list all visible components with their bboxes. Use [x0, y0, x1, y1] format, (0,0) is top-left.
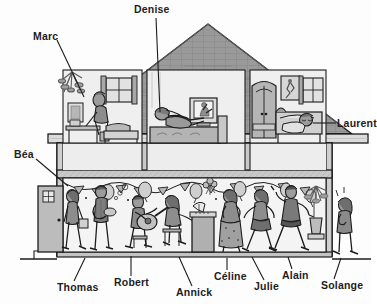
leader-line-solange: [334, 258, 341, 279]
framed-picture: [68, 103, 83, 122]
window-right-room: [299, 76, 323, 104]
room-left-marc: [58, 70, 142, 143]
window-left-room: [101, 76, 137, 104]
room-middle-denise: [147, 70, 245, 143]
label-robert: Robert: [114, 277, 149, 288]
ground-floor-party: [38, 178, 358, 254]
label-celine: Céline: [214, 271, 247, 282]
room-right-laurent: [250, 70, 326, 143]
upper-floor: [63, 143, 326, 170]
label-marc: Marc: [33, 31, 58, 42]
leader-line-annick: [179, 257, 192, 286]
label-thomas: Thomas: [57, 282, 98, 293]
person-solange: [333, 187, 358, 254]
wardrobe: [252, 82, 276, 139]
front-door: [38, 186, 63, 252]
leader-line-thomas: [74, 258, 85, 281]
leader-line-julie: [252, 257, 264, 280]
leader-line-alain: [288, 257, 292, 269]
label-denise: Denise: [134, 4, 170, 15]
label-solange: Solange: [321, 280, 363, 291]
label-bea: Béa: [14, 149, 34, 160]
label-julie: Julie: [254, 281, 279, 292]
label-alain: Alain: [282, 270, 309, 281]
label-annick: Annick: [176, 287, 212, 298]
poster: [281, 76, 300, 100]
label-laurent: Laurent: [337, 118, 377, 129]
